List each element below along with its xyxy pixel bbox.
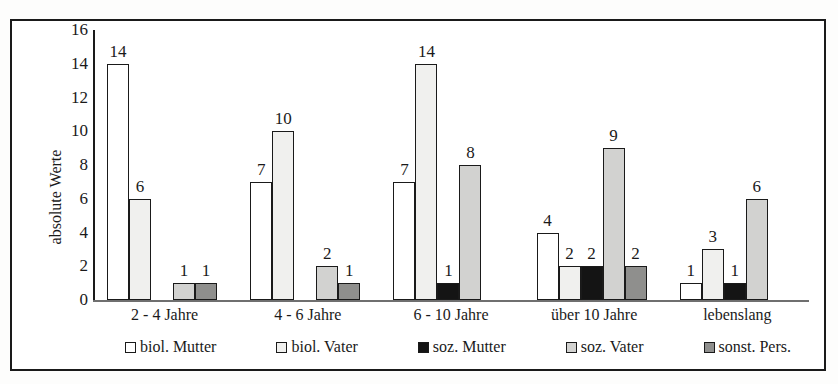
bar-group: 42292 (523, 30, 666, 300)
plot-area: 146117102171418422921316 (93, 30, 809, 300)
bar: 2 (625, 266, 647, 300)
legend-item[interactable]: sonst. Pers. (704, 338, 791, 356)
y-axis-tick: 12 (48, 89, 88, 106)
bar-value-label: 1 (444, 262, 453, 279)
bar: 2 (581, 266, 603, 300)
bar-value-label: 1 (687, 262, 696, 279)
bar: 14 (415, 64, 437, 300)
bar-value-label: 14 (110, 43, 127, 60)
bar: 14 (107, 64, 129, 300)
y-axis-tick: 8 (48, 156, 88, 173)
x-axis-category-label: 2 - 4 Jahre (93, 306, 236, 324)
chart-figure: absolute Werte 0246810121416 14611710217… (0, 0, 838, 384)
bar-value-label: 6 (753, 178, 762, 195)
y-axis-tick: 2 (48, 257, 88, 274)
bar: 7 (250, 182, 272, 300)
bar: 9 (603, 148, 625, 300)
bar: 1 (195, 283, 217, 300)
x-axis-category-label: 4 - 6 Jahre (236, 306, 379, 324)
bar-value-label: 8 (466, 144, 475, 161)
y-axis-tick: 16 (48, 21, 88, 38)
legend-item[interactable]: soz. Vater (566, 338, 644, 356)
legend-swatch-icon (125, 342, 136, 353)
bar: 1 (437, 283, 459, 300)
bar-value-label: 10 (275, 110, 292, 127)
bar-value-label: 2 (631, 245, 640, 262)
bar-value-label: 1 (180, 262, 189, 279)
x-axis-category-label: 6 - 10 Jahre (379, 306, 522, 324)
bar-value-label: 1 (731, 262, 740, 279)
legend-label: biol. Mutter (140, 338, 216, 356)
x-axis-line (93, 300, 809, 302)
x-axis-category-label: über 10 Jahre (523, 306, 666, 324)
bar-value-label: 14 (418, 43, 435, 60)
bar: 1 (338, 283, 360, 300)
bar: 3 (702, 249, 724, 300)
legend-label: soz. Vater (581, 338, 644, 356)
bar-value-label: 3 (709, 228, 718, 245)
y-axis-tick: 6 (48, 190, 88, 207)
cut-off-title (0, 0, 838, 14)
legend-item[interactable]: biol. Mutter (125, 338, 216, 356)
bar-group: 14611 (93, 30, 236, 300)
bar-value-label: 2 (587, 245, 596, 262)
bar: 6 (746, 199, 768, 300)
bar-value-label: 1 (202, 262, 211, 279)
legend-item[interactable]: biol. Vater (276, 338, 357, 356)
chart-legend: biol. Mutterbiol. Vatersoz. Muttersoz. V… (93, 336, 809, 358)
legend-swatch-icon (418, 342, 429, 353)
y-axis-tick: 10 (48, 122, 88, 139)
bar: 4 (537, 233, 559, 301)
bar: 1 (173, 283, 195, 300)
bar: 8 (459, 165, 481, 300)
legend-swatch-icon (276, 342, 287, 353)
legend-label: biol. Vater (291, 338, 357, 356)
bar-value-label: 9 (609, 127, 618, 144)
bar-value-label: 4 (543, 212, 552, 229)
y-axis-ticks: 0246810121416 (40, 0, 88, 384)
bar: 1 (680, 283, 702, 300)
bar-value-label: 6 (136, 178, 145, 195)
bar: 1 (724, 283, 746, 300)
y-axis-tick: 14 (48, 55, 88, 72)
y-axis-tick: 0 (48, 291, 88, 308)
bar-group: 1316 (666, 30, 809, 300)
bar-value-label: 2 (565, 245, 574, 262)
bar-value-label: 7 (257, 161, 266, 178)
bar-value-label: 2 (323, 245, 332, 262)
legend-swatch-icon (704, 342, 715, 353)
bar-group: 71021 (236, 30, 379, 300)
bar: 10 (272, 131, 294, 300)
bar: 6 (129, 199, 151, 300)
y-axis-tick: 4 (48, 224, 88, 241)
bar-value-label: 7 (400, 161, 409, 178)
bar-value-label: 1 (345, 262, 354, 279)
legend-item[interactable]: soz. Mutter (418, 338, 506, 356)
legend-label: soz. Mutter (433, 338, 506, 356)
bar: 2 (559, 266, 581, 300)
x-axis-category-label: lebenslang (666, 306, 809, 324)
legend-label: sonst. Pers. (719, 338, 791, 356)
bar: 7 (393, 182, 415, 300)
bar-group: 71418 (379, 30, 522, 300)
bar: 2 (316, 266, 338, 300)
legend-swatch-icon (566, 342, 577, 353)
